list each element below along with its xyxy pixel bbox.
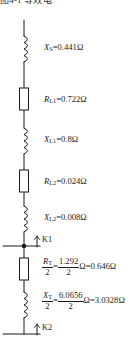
node-label-k1-text: K1: [42, 235, 52, 244]
label-rl2-unit: Ω: [80, 176, 86, 186]
label-xt-right-denominator: 2: [58, 302, 84, 312]
label-xt-half: XT 2 = 6.0656 2 Ω=3.0328Ω: [42, 291, 125, 312]
fraction-xt-right: 6.0656 2: [58, 291, 84, 311]
label-rt-right-denominator: 2: [58, 268, 79, 278]
node-label-k2: K2: [42, 324, 52, 332]
node-label-k1: K1: [42, 236, 52, 244]
fraction-xt-left: XT 2: [42, 291, 53, 312]
label-rl1-unit: Ω: [80, 94, 86, 104]
label-xs-unit: Ω: [77, 42, 83, 52]
label-rt-left-denominator: 2: [42, 268, 53, 278]
label-xl1: XL1=0.8Ω: [44, 135, 78, 145]
inductor-symbol-xt: [24, 292, 28, 318]
label-rl1: RL1=0.722Ω: [44, 95, 87, 105]
label-xl2: XL2=0.008Ω: [44, 213, 87, 223]
label-xt-result-value: 3.0328: [95, 295, 119, 305]
label-xl2-value: 0.008: [61, 212, 80, 222]
label-xl2-unit: Ω: [80, 212, 86, 222]
junction-dot-k1: [22, 244, 27, 249]
label-xt-subscript: T: [48, 293, 52, 300]
label-xl1-value: 0.8: [61, 134, 72, 144]
resistor-symbol-rt: [20, 258, 29, 280]
label-xs-value: 0.441: [58, 42, 77, 52]
fraction-rt-left: RT 2: [42, 257, 53, 278]
node-label-k2-text: K2: [42, 323, 52, 332]
label-xt-result-unit: Ω: [118, 295, 124, 305]
resistor-symbol-rl2: [20, 170, 29, 192]
label-rt-result-value: 0.646: [90, 261, 109, 271]
label-rl2-value: 0.024: [61, 176, 80, 186]
inductor-symbol-xl2: [24, 206, 28, 232]
label-xt-left-denominator: 2: [42, 302, 53, 312]
label-xt-right-numerator: 6.0656: [58, 291, 84, 302]
label-xl1-unit: Ω: [72, 134, 78, 144]
label-rt-result-unit: Ω: [110, 261, 116, 271]
label-rt-right-numerator: 1.292: [58, 257, 79, 268]
label-rt-half: RT 2 = 1.292 2 Ω=0.646Ω: [42, 257, 116, 278]
label-rt-subscript: T: [48, 259, 52, 266]
inductor-symbol-xs: [24, 36, 28, 62]
label-rl2: RL2=0.024Ω: [44, 177, 87, 187]
resistor-symbol-rl1: [20, 88, 29, 110]
label-xs: XS=0.441Ω: [44, 43, 83, 53]
fraction-rt-right: 1.292 2: [58, 257, 79, 277]
inductor-symbol-xl1: [24, 128, 28, 154]
label-rl1-value: 0.722: [61, 94, 80, 104]
